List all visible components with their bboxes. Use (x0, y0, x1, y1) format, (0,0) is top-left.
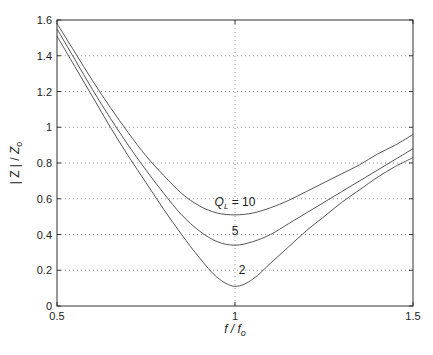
curve-label: QL = 10 (215, 195, 256, 211)
curve-label: 5 (232, 224, 239, 238)
y-tick-label: 0.6 (37, 193, 52, 205)
curves (57, 24, 413, 287)
x-axis-label: f / fo (224, 322, 246, 338)
x-tick-label: 1 (232, 310, 238, 322)
curve-label: 2 (239, 263, 246, 277)
ticks (57, 20, 413, 306)
grid (57, 20, 413, 306)
plot-frame (57, 20, 413, 306)
tick-labels: 00.20.40.60.811.21.41.60.511.5 (37, 14, 421, 322)
y-tick-label: 0.2 (37, 264, 52, 276)
x-tick-label: 1.5 (405, 310, 420, 322)
y-tick-label: 0.4 (37, 229, 52, 241)
y-tick-label: 0.8 (37, 157, 52, 169)
y-axis-label: | Z | / Zo (8, 142, 24, 185)
chart: 00.20.40.60.811.21.41.60.511.5 QL = 1052… (0, 0, 433, 355)
y-tick-label: 1.4 (37, 50, 52, 62)
y-tick-label: 1 (46, 121, 52, 133)
x-tick-label: 0.5 (49, 310, 64, 322)
y-tick-label: 1.6 (37, 14, 52, 26)
y-tick-label: 1.2 (37, 86, 52, 98)
